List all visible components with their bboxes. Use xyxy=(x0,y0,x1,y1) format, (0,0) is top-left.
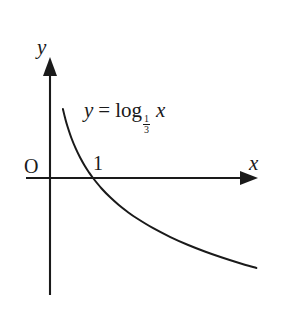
fraction-denominator: 3 xyxy=(143,125,150,135)
equation-base-fraction: 1 3 xyxy=(143,114,150,135)
equation-lhs: y xyxy=(84,100,93,121)
origin-label: O xyxy=(24,156,38,176)
equation-argument: x xyxy=(156,100,165,121)
logarithm-graph-figure: y x O 1 y = log 1 3 x xyxy=(0,0,284,311)
x-tick-label-1: 1 xyxy=(93,153,103,173)
x-axis-label: x xyxy=(249,153,258,174)
y-axis-arrow-icon xyxy=(43,57,57,76)
curve-equation: y = log 1 3 x xyxy=(84,100,165,130)
log-curve xyxy=(63,109,257,268)
fraction-numerator: 1 xyxy=(143,114,150,124)
y-axis-label: y xyxy=(37,37,46,58)
equation-function-name: log xyxy=(115,100,142,121)
equation-operator: = xyxy=(98,100,110,121)
